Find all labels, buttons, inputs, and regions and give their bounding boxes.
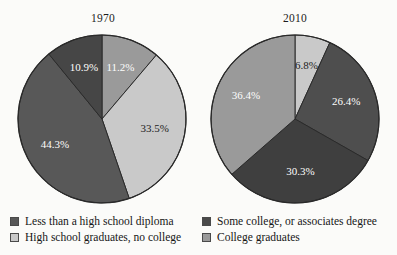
panel-title-1970: 1970 <box>8 12 198 24</box>
legend-right: Some college, or associates degree Colle… <box>202 215 377 247</box>
legend-swatch-icon <box>10 217 19 226</box>
legend-item-label: Some college, or associates degree <box>217 215 377 228</box>
pie-slice-label: 10.9% <box>70 61 98 73</box>
pie-slice-label: 30.3% <box>286 165 314 177</box>
pie-slice-label: 33.5% <box>141 122 169 134</box>
pie-chart-1970: 11.2%33.5%44.3%10.9% <box>16 33 188 205</box>
legend-left: Less than a high school diploma High sch… <box>10 215 181 247</box>
legend-item: Less than a high school diploma <box>10 215 181 228</box>
pie-chart-2010: 6.8%26.4%30.3%36.4% <box>209 33 381 205</box>
pie-slice-label: 6.8% <box>295 59 318 71</box>
legend-item-label: College graduates <box>217 231 300 244</box>
pie-slice-label: 26.4% <box>332 95 360 107</box>
legend-swatch-icon <box>202 217 211 226</box>
legend-item: Some college, or associates degree <box>202 215 377 228</box>
pie-slice-label: 36.4% <box>232 89 260 101</box>
legend-item-label: High school graduates, no college <box>25 231 181 244</box>
pie-right-svg: 6.8%26.4%30.3%36.4% <box>209 33 381 205</box>
legend-item: College graduates <box>202 231 377 244</box>
pie-chart-figure: 1970 2010 11.2%33.5%44.3%10.9% 6.8%26.4%… <box>0 0 397 255</box>
legend-item: High school graduates, no college <box>10 231 181 244</box>
pie-left-svg: 11.2%33.5%44.3%10.9% <box>16 33 188 205</box>
pie-slice-label: 44.3% <box>41 138 69 150</box>
pie-slice-label: 11.2% <box>106 61 134 73</box>
legend-swatch-icon <box>202 233 211 242</box>
panel-title-2010: 2010 <box>200 12 390 24</box>
legend-swatch-icon <box>10 233 19 242</box>
legend-item-label: Less than a high school diploma <box>25 215 174 228</box>
